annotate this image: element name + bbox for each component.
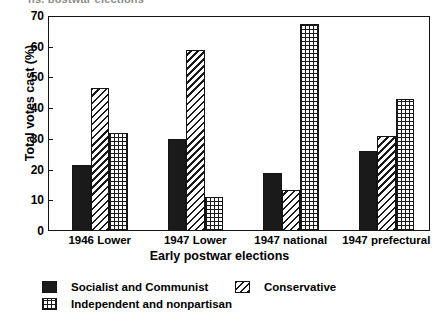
y-axis-tick-label: 60 xyxy=(18,41,44,53)
bars-layer xyxy=(48,16,430,231)
bar xyxy=(377,136,396,231)
y-axis-tick-label: 30 xyxy=(18,133,44,145)
legend-label-independent-and-nonpartisan: Independent and nonpartisan xyxy=(71,298,232,310)
bar xyxy=(396,99,415,231)
bar xyxy=(359,151,378,231)
bar xyxy=(282,190,301,231)
bar xyxy=(263,173,282,231)
y-axis-tick-mark xyxy=(48,108,53,109)
legend-label-conservative: Conservative xyxy=(264,281,336,293)
x-axis-tick-label: 1947 national xyxy=(254,234,327,246)
legend-item-socialist-and-communist: Socialist and Communist xyxy=(42,281,208,293)
legend-label-socialist-and-communist: Socialist and Communist xyxy=(71,281,208,293)
bar xyxy=(91,88,110,231)
y-axis-tick-mark xyxy=(48,170,53,171)
x-axis-tick-label: 1947 prefectural xyxy=(342,234,430,246)
legend-swatch-icon-socialist-and-communist xyxy=(42,281,57,293)
y-axis-tick-label: 40 xyxy=(18,102,44,114)
bar xyxy=(205,197,224,231)
y-axis-tick-label: 10 xyxy=(18,194,44,206)
y-axis-tick-label: 20 xyxy=(18,164,44,176)
y-axis-tick-mark xyxy=(48,77,53,78)
bar xyxy=(168,139,187,231)
y-axis-tick-mark xyxy=(48,200,53,201)
bar xyxy=(109,133,128,231)
legend-item-conservative: Conservative xyxy=(235,281,336,293)
bar xyxy=(72,165,91,231)
y-axis-tick-label: 70 xyxy=(18,10,44,22)
y-axis-tick-label: 0 xyxy=(18,225,44,237)
bar-chart-figure: Total votes cast (%) 010203040506070 Ear… xyxy=(0,0,439,328)
y-axis-tick-label: 50 xyxy=(18,71,44,83)
x-axis-tick-label: 1946 Lower xyxy=(68,234,131,246)
y-axis-tick-mark xyxy=(48,139,53,140)
y-axis-tick-mark xyxy=(48,47,53,48)
bar xyxy=(300,24,319,231)
legend-swatch-icon-independent-and-nonpartisan xyxy=(42,298,57,310)
x-axis-tick-label: 1947 Lower xyxy=(164,234,227,246)
x-axis-title: Early postwar elections xyxy=(0,249,439,263)
y-axis-tick-labels: 010203040506070 xyxy=(14,0,44,328)
bar xyxy=(186,50,205,231)
legend-swatch-icon-conservative xyxy=(235,281,250,293)
legend-item-independent-and-nonpartisan: Independent and nonpartisan xyxy=(42,298,232,310)
